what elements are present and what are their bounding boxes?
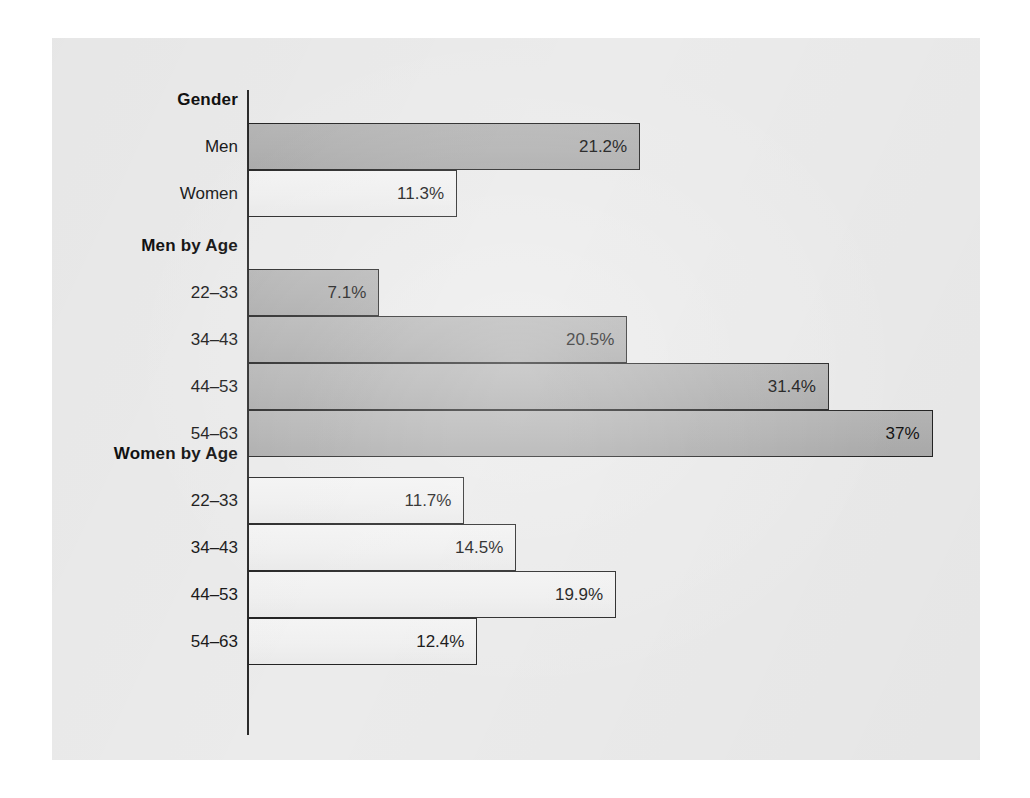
bar-women-54-63[interactable]: 12.4% [248, 618, 477, 665]
group-title-women-by-age: Women by Age [114, 444, 238, 464]
bar-row-label: 34–43 [191, 316, 238, 363]
bar-row[interactable]: 54–63 12.4% [52, 618, 980, 665]
bar-women-22-33[interactable]: 11.7% [248, 477, 464, 524]
bar-row[interactable]: 44–53 31.4% [52, 363, 980, 410]
bar-row[interactable]: 34–43 20.5% [52, 316, 980, 363]
bar-value-label: 14.5% [455, 538, 515, 558]
bar-row[interactable]: 34–43 14.5% [52, 524, 980, 571]
horizontal-bar-chart: Gender Men 21.2% Women 11.3% [52, 38, 980, 760]
bar-men-22-33[interactable]: 7.1% [248, 269, 379, 316]
bar-men-54-63[interactable]: 37% [248, 410, 933, 457]
bar-row-label: 22–33 [191, 269, 238, 316]
page-root: Gender Men 21.2% Women 11.3% [0, 0, 1030, 798]
bar-row[interactable]: 22–33 11.7% [52, 477, 980, 524]
bar-row-label: 44–53 [191, 571, 238, 618]
bar-value-label: 7.1% [328, 283, 379, 303]
bar-row-label: Men [205, 123, 238, 170]
bar-value-label: 19.9% [555, 585, 615, 605]
bar-men-34-43[interactable]: 20.5% [248, 316, 627, 363]
bar-row-label: 34–43 [191, 524, 238, 571]
bar-value-label: 31.4% [768, 377, 828, 397]
group-title-gender: Gender [177, 90, 238, 110]
bar-men-44-53[interactable]: 31.4% [248, 363, 829, 410]
bar-row-label: 54–63 [191, 618, 238, 665]
group-rows-men-by-age: 22–33 7.1% 34–43 20.5% 44–53 [52, 269, 980, 457]
bar-women-44-53[interactable]: 19.9% [248, 571, 616, 618]
bar-value-label: 37% [885, 424, 931, 444]
bar-men[interactable]: 21.2% [248, 123, 640, 170]
bar-value-label: 11.7% [404, 491, 463, 511]
group-rows-gender: Men 21.2% Women 11.3% [52, 123, 980, 217]
bar-row[interactable]: 22–33 7.1% [52, 269, 980, 316]
bar-women-34-43[interactable]: 14.5% [248, 524, 516, 571]
bar-row-label: Women [180, 170, 238, 217]
group-rows-women-by-age: 22–33 11.7% 34–43 14.5% 44–53 [52, 477, 980, 665]
bar-row-label: 22–33 [191, 477, 238, 524]
bar-row[interactable]: Men 21.2% [52, 123, 980, 170]
bar-value-label: 12.4% [416, 632, 476, 652]
chart-panel: Gender Men 21.2% Women 11.3% [52, 38, 980, 760]
bar-row[interactable]: 44–53 19.9% [52, 571, 980, 618]
bar-women[interactable]: 11.3% [248, 170, 457, 217]
bar-row[interactable]: Women 11.3% [52, 170, 980, 217]
bar-value-label: 11.3% [397, 184, 456, 204]
bar-row-label: 44–53 [191, 363, 238, 410]
bar-value-label: 21.2% [579, 137, 639, 157]
bar-value-label: 20.5% [566, 330, 626, 350]
group-title-men-by-age: Men by Age [141, 236, 238, 256]
